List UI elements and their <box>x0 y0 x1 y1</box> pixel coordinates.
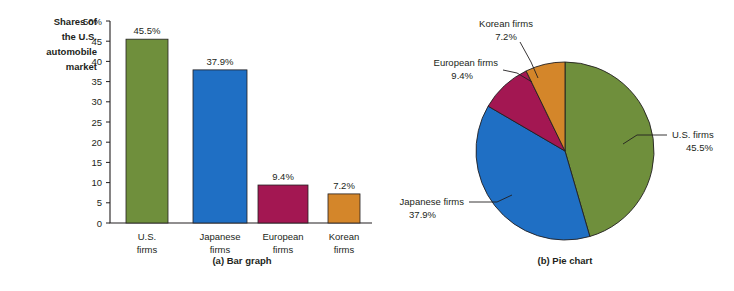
bar-korean-firms <box>328 194 360 223</box>
bar-value-label: 45.5% <box>134 25 161 36</box>
pie-callout-us-firms-name: U.S. firms <box>672 129 714 140</box>
x-category-label: Korean <box>329 231 360 242</box>
pie-callout-japanese-firms-name: Japanese firms <box>400 196 465 207</box>
x-category-label: firms <box>137 244 158 255</box>
shares-of-us-automobile-market-figure: Shares of the U.S. automobile market 051… <box>0 0 734 291</box>
y-tick-label: 15 <box>91 157 102 168</box>
y-tick-label: 30 <box>91 96 102 107</box>
pie-callout-korean-firms-name: Korean firms <box>479 18 533 29</box>
pie-callout-european-firms-name: European firms <box>434 57 499 68</box>
x-category-label: Japanese <box>199 231 240 242</box>
y-tick-label: 5 <box>97 197 102 208</box>
bar-japanese-firms <box>193 70 247 223</box>
y-tick-label: 40 <box>91 56 102 67</box>
y-tick-label: 0 <box>97 218 102 229</box>
x-category-label: European <box>262 231 303 242</box>
y-tick-label: 35 <box>91 76 102 87</box>
pie-callout-japanese-firms-value: 37.9% <box>409 209 436 220</box>
pie-slices <box>476 62 654 240</box>
bar-value-label: 37.9% <box>207 56 234 67</box>
bar-value-label: 9.4% <box>272 171 294 182</box>
panel-a-caption: (a) Bar graph <box>212 255 271 266</box>
x-category-label: U.S. <box>138 231 156 242</box>
pie-callout-european-firms-value: 9.4% <box>451 70 473 81</box>
pie-callout-us-firms-value: 45.5% <box>686 142 713 153</box>
y-tick-label: 45 <box>91 36 102 47</box>
bar-value-label: 7.2% <box>333 180 355 191</box>
y-tick-label: 20 <box>91 137 102 148</box>
pie-callout-korean-firms-value: 7.2% <box>495 31 517 42</box>
x-category-label: firms <box>210 244 231 255</box>
bar-u-s-firms <box>126 39 168 223</box>
y-axis-title-line-3: automobile <box>46 46 97 57</box>
panel-b-caption: (b) Pie chart <box>538 255 594 266</box>
bar-european-firms <box>258 185 308 223</box>
y-tick-label: 50% <box>83 16 103 27</box>
y-tick-label: 10 <box>91 177 102 188</box>
x-category-label: firms <box>273 244 294 255</box>
y-tick-label: 25 <box>91 117 102 128</box>
x-category-label: firms <box>334 244 355 255</box>
